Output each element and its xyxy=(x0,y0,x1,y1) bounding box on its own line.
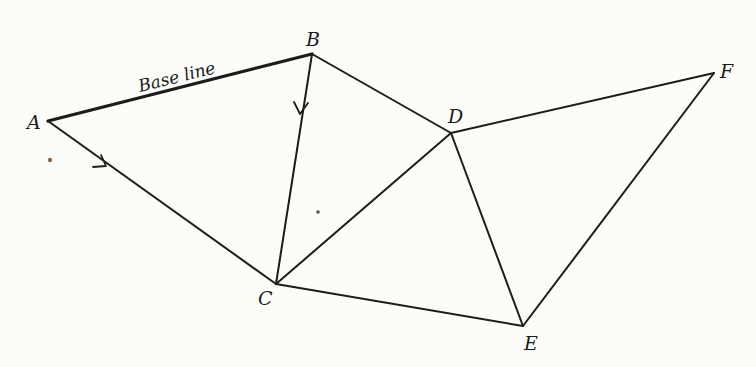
vertex-label-d: D xyxy=(447,105,463,127)
vertex-label-f: F xyxy=(719,60,734,82)
edge-d-e xyxy=(451,133,523,326)
edge-c-e xyxy=(276,284,523,326)
edge-c-d xyxy=(276,133,451,284)
triangulation-diagram: Base line A B C D E F xyxy=(0,0,756,367)
vertex-label-a: A xyxy=(25,111,41,133)
vertex-label-c: C xyxy=(258,287,273,309)
base-line-label: Base line xyxy=(135,57,217,96)
edge-a-b-base-line xyxy=(48,54,312,121)
edge-a-c xyxy=(48,121,276,284)
vertex-label-b: B xyxy=(305,28,320,50)
vertex-label-e: E xyxy=(523,332,538,354)
paper-speck xyxy=(48,158,52,162)
paper-speck xyxy=(316,210,320,214)
edge-b-c xyxy=(276,54,312,284)
diagram-svg: Base line A B C D E F xyxy=(0,0,756,367)
edge-b-d xyxy=(312,54,451,133)
arrow-icon-b-to-c xyxy=(294,102,308,114)
